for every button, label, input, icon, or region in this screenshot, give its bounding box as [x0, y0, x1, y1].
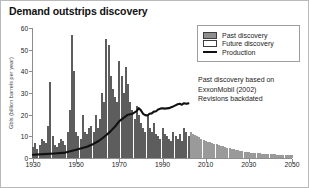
legend-item-future-discovery: Future discovery [203, 40, 295, 47]
y-tick-label: 40 [21, 68, 28, 75]
note-line-3: Revisions backdated [198, 94, 306, 104]
x-tick-mark [206, 159, 207, 163]
chart-figure: Demand outstrips discovery Gbls (billion… [0, 0, 309, 188]
y-tick-label: 60 [21, 25, 28, 32]
legend-swatch-production [203, 49, 217, 56]
chart-legend: Past discovery Future discovery Producti… [197, 25, 300, 62]
note-line-1: Past discovery based on [198, 75, 306, 85]
note-line-2: ExxonMobil (2002) [198, 85, 306, 95]
legend-label-production: Production [222, 49, 255, 56]
x-tick-mark [33, 159, 34, 163]
chart-source-note: Past discovery based on ExxonMobil (2002… [198, 75, 306, 104]
x-tick-mark [119, 159, 120, 163]
legend-swatch-future-discovery [203, 40, 217, 47]
y-tick-label: 50 [21, 46, 28, 53]
x-tick-mark [249, 159, 250, 163]
legend-item-past-discovery: Past discovery [203, 32, 295, 39]
x-tick-mark [163, 159, 164, 163]
legend-label-future-discovery: Future discovery [222, 40, 274, 47]
x-tick-mark [76, 159, 77, 163]
y-tick-label: 10 [21, 133, 28, 140]
legend-label-past-discovery: Past discovery [222, 32, 268, 39]
legend-swatch-past-discovery [203, 32, 217, 39]
chart-title: Demand outstrips discovery [9, 5, 148, 17]
y-tick-label: 20 [21, 111, 28, 118]
y-axis-label: Gbls (billion barrels per year) [8, 33, 14, 153]
legend-item-production: Production [203, 49, 295, 56]
y-tick-label: 30 [21, 90, 28, 97]
x-tick-mark [292, 159, 293, 163]
